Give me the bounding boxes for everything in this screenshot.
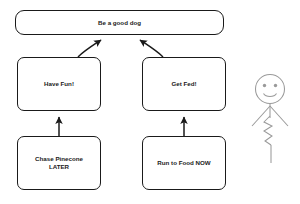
stick-figure-head-icon: [256, 75, 285, 104]
node-label: Chase Pinecone LATER: [31, 155, 87, 171]
stick-figure-right-eye-icon: [274, 84, 277, 87]
stick-figure-zigzag-body-icon: [264, 116, 272, 145]
node-be-a-good-dog[interactable]: Be a good dog: [15, 10, 224, 35]
diagram-canvas: Be a good dog Have Fun! Get Fed! Chase P…: [0, 0, 300, 204]
stick-figure-smile-icon: [264, 94, 277, 97]
node-label: Have Fun!: [40, 80, 78, 88]
node-have-fun[interactable]: Have Fun!: [17, 57, 101, 111]
stick-figure-left-eye-icon: [263, 84, 266, 87]
node-get-fed[interactable]: Get Fed!: [142, 57, 226, 111]
node-label: Get Fed!: [167, 80, 200, 88]
node-label: Be a good dog: [94, 19, 145, 27]
edge-have-fun-to-goal: [78, 40, 101, 57]
stick-figure-left-arm: [252, 106, 270, 126]
stick-figure: [252, 75, 288, 164]
stick-figure-right-arm: [270, 106, 288, 126]
node-run-to-food-now[interactable]: Run to Food NOW: [142, 136, 226, 190]
node-chase-pinecone-later[interactable]: Chase Pinecone LATER: [17, 136, 101, 190]
node-label: Run to Food NOW: [153, 159, 214, 167]
edge-get-fed-to-goal: [140, 40, 163, 57]
